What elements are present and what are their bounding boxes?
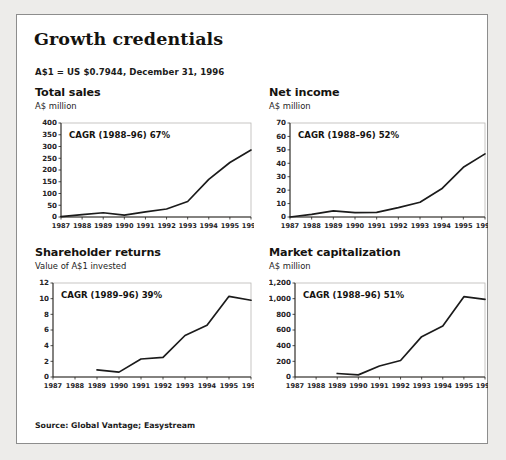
svg-text:1989: 1989	[324, 221, 343, 229]
svg-text:CAGR (1988–96) 52%: CAGR (1988–96) 52%	[298, 130, 400, 140]
exchange-rate-note: A$1 = US $0.7944, December 31, 1996	[35, 67, 224, 77]
exhibit-card: Growth credentials A$1 = US $0.7944, Dec…	[16, 14, 488, 444]
panel-heading: Market capitalization	[269, 247, 488, 260]
chart-net-income: 0102030405060701987198819891990199119921…	[269, 114, 488, 234]
svg-text:100: 100	[42, 188, 57, 197]
svg-text:400: 400	[42, 118, 57, 127]
svg-text:1987: 1987	[52, 221, 71, 229]
svg-text:1992: 1992	[157, 221, 176, 229]
svg-text:1992: 1992	[391, 381, 410, 389]
svg-text:1987: 1987	[281, 221, 300, 229]
svg-text:1996: 1996	[242, 221, 254, 229]
panel-subheading: A$ million	[269, 101, 488, 111]
svg-text:60: 60	[276, 131, 286, 140]
source-note: Source: Global Vantage; Easystream	[35, 421, 195, 430]
svg-text:1988: 1988	[73, 221, 92, 229]
chart-shareholder-returns: 0246810121987198819891990199119921993199…	[35, 274, 254, 394]
svg-text:1994: 1994	[198, 381, 217, 389]
svg-text:350: 350	[42, 130, 57, 139]
svg-text:1996: 1996	[476, 221, 488, 229]
svg-text:CAGR (1988–96) 67%: CAGR (1988–96) 67%	[69, 130, 171, 140]
svg-text:70: 70	[276, 118, 286, 127]
svg-text:1,200: 1,200	[269, 278, 291, 287]
svg-text:1995: 1995	[220, 381, 239, 389]
svg-text:1988: 1988	[302, 221, 321, 229]
svg-text:200: 200	[276, 356, 291, 365]
chart-svg-shareholder-returns: 0246810121987198819891990199119921993199…	[35, 274, 254, 394]
svg-text:1988: 1988	[307, 381, 326, 389]
svg-text:2: 2	[44, 356, 49, 365]
chart-market-capitalization: 02004006008001,0001,20019871988198919901…	[269, 274, 488, 394]
svg-text:150: 150	[42, 177, 57, 186]
chart-svg-net-income: 0102030405060701987198819891990199119921…	[269, 114, 488, 234]
svg-text:1995: 1995	[455, 381, 474, 389]
svg-text:30: 30	[276, 172, 286, 181]
svg-text:1989: 1989	[94, 221, 113, 229]
svg-text:800: 800	[276, 309, 291, 318]
svg-text:300: 300	[42, 141, 57, 150]
panel-heading: Shareholder returns	[35, 247, 254, 260]
svg-text:250: 250	[42, 153, 57, 162]
svg-text:1991: 1991	[367, 221, 386, 229]
svg-text:1987: 1987	[44, 381, 63, 389]
svg-text:1995: 1995	[454, 221, 473, 229]
svg-text:0: 0	[281, 212, 286, 221]
svg-text:0: 0	[286, 372, 291, 381]
svg-text:1989: 1989	[328, 381, 347, 389]
svg-text:1992: 1992	[154, 381, 173, 389]
svg-text:0: 0	[44, 372, 49, 381]
svg-text:CAGR (1988–96) 51%: CAGR (1988–96) 51%	[303, 290, 405, 300]
panel-heading: Total sales	[35, 87, 254, 100]
svg-text:1990: 1990	[349, 381, 368, 389]
svg-text:1991: 1991	[132, 381, 151, 389]
svg-text:10: 10	[39, 294, 49, 303]
panel-net-income: Net income A$ million 010203040506070198…	[269, 87, 488, 235]
chart-total-sales: 0501001502002503003504001987198819891990…	[35, 114, 254, 234]
panel-heading: Net income	[269, 87, 488, 100]
svg-text:1995: 1995	[221, 221, 240, 229]
svg-text:6: 6	[44, 325, 49, 334]
svg-text:CAGR (1989–96) 39%: CAGR (1989–96) 39%	[61, 290, 163, 300]
svg-text:1996: 1996	[476, 381, 488, 389]
svg-text:1989: 1989	[88, 381, 107, 389]
chart-svg-market-capitalization: 02004006008001,0001,20019871988198919901…	[269, 274, 488, 394]
svg-text:1988: 1988	[66, 381, 85, 389]
svg-text:1994: 1994	[432, 221, 451, 229]
svg-text:50: 50	[276, 145, 286, 154]
svg-text:0: 0	[52, 212, 57, 221]
panel-subheading: Value of A$1 invested	[35, 261, 254, 271]
svg-text:1,000: 1,000	[269, 294, 291, 303]
svg-text:1990: 1990	[110, 381, 129, 389]
svg-text:1993: 1993	[176, 381, 195, 389]
svg-text:200: 200	[42, 165, 57, 174]
panel-total-sales: Total sales A$ million 05010015020025030…	[35, 87, 254, 235]
panel-market-capitalization: Market capitalization A$ million 0200400…	[269, 247, 488, 395]
svg-text:1990: 1990	[346, 221, 365, 229]
svg-text:1993: 1993	[411, 221, 430, 229]
svg-text:4: 4	[44, 341, 49, 350]
svg-text:1990: 1990	[115, 221, 134, 229]
chart-svg-total-sales: 0501001502002503003504001987198819891990…	[35, 114, 254, 234]
svg-text:1993: 1993	[178, 221, 197, 229]
svg-text:40: 40	[276, 158, 286, 167]
svg-text:1991: 1991	[136, 221, 155, 229]
svg-text:1996: 1996	[242, 381, 254, 389]
svg-text:1994: 1994	[200, 221, 219, 229]
svg-text:600: 600	[276, 325, 291, 334]
svg-text:1994: 1994	[434, 381, 453, 389]
panel-shareholder-returns: Shareholder returns Value of A$1 investe…	[35, 247, 254, 395]
panel-subheading: A$ million	[35, 101, 254, 111]
svg-text:50: 50	[47, 200, 57, 209]
page-title: Growth credentials	[34, 29, 223, 49]
svg-text:400: 400	[276, 341, 291, 350]
svg-text:20: 20	[276, 185, 286, 194]
svg-text:8: 8	[44, 309, 49, 318]
svg-text:1991: 1991	[370, 381, 389, 389]
svg-text:10: 10	[276, 198, 286, 207]
svg-text:12: 12	[39, 278, 49, 287]
svg-text:1992: 1992	[389, 221, 408, 229]
svg-text:1987: 1987	[286, 381, 305, 389]
svg-text:1993: 1993	[412, 381, 431, 389]
panel-subheading: A$ million	[269, 261, 488, 271]
